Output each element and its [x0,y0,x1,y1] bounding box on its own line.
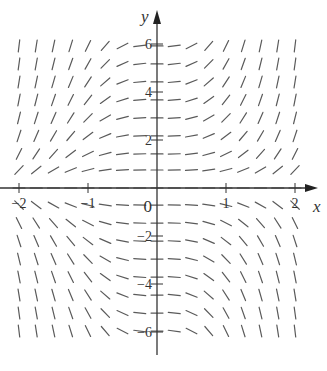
slope-segment [35,325,37,337]
slope-segment [294,76,296,88]
slope-segment [101,291,110,299]
slope-segment [69,307,73,318]
slope-segment [223,77,230,87]
slope-segment [100,239,111,244]
slope-segment [101,78,110,86]
slope-segment [18,40,19,52]
slope-segment [186,116,198,119]
slope-segment [52,271,56,282]
slope-segment [65,203,76,207]
slope-segment [239,219,248,226]
slope-segment [31,201,41,208]
slope-segment [277,325,279,337]
slope-segment [186,153,198,154]
slope-segment [292,149,297,160]
slope-segment [100,115,110,121]
slope-segment [52,76,55,88]
slope-segment [241,76,246,87]
slope-segment [257,131,263,141]
slope-segment [35,40,37,52]
slope-segment [168,294,180,295]
slope-segment [257,219,265,228]
slope-segment [186,135,198,137]
slope-segment [259,325,262,337]
slope-segment [277,58,279,70]
slope-segment [294,58,296,70]
slope-segment [50,131,56,141]
slope-segment [293,130,297,141]
slope-segment [221,237,231,244]
slope-segment [168,330,180,332]
slope-segment [203,134,214,139]
slope-segment [117,258,129,261]
slope-segment [258,112,263,123]
slope-segment [255,167,265,173]
slope-segment [240,254,246,264]
slope-segment [222,255,230,264]
slope-segment [100,134,111,139]
slope-segment [117,61,128,66]
slope-segment [101,41,109,50]
slope-segment [18,271,20,283]
slope-segment [294,289,296,301]
y-tick-label: −6 [137,325,152,340]
slope-segment [186,43,197,48]
slope-segment [48,167,58,173]
slope-segment [99,221,111,224]
slope-segment [49,149,57,158]
slope-segment [35,76,37,88]
slope-segment [66,219,75,226]
slope-segment [205,60,213,69]
slope-segment [257,236,263,246]
slope-segment [168,45,180,47]
slope-segment [291,166,299,175]
slope-segment [51,254,56,265]
slope-segment [134,294,146,295]
slope-segment [117,170,129,171]
slope-segment [33,218,39,228]
slope-field-chart: x y 0 −2−112−6−4−2246 [0,0,327,371]
origin-label: 0 [144,197,153,216]
slope-segment [223,59,229,69]
slope-segment [68,272,73,283]
slope-segment [168,136,180,137]
slope-segment [239,131,247,140]
slope-segment [241,95,246,106]
slope-segment [168,99,180,100]
slope-segment [276,271,279,283]
slope-segment [205,326,213,335]
slope-segment [69,58,73,69]
y-axis-arrow-icon [153,10,161,24]
slope-segment [35,94,38,106]
slope-segment [186,275,197,279]
slope-segment [274,149,281,159]
slope-segment [50,236,56,246]
slope-segment [35,307,37,319]
slope-segment [277,289,279,301]
slope-segment [204,274,214,281]
slope-segment [117,116,129,119]
slope-segment [117,153,129,154]
slope-segment [68,76,73,87]
slope-segment [186,170,198,171]
slope-segment [186,328,197,334]
slope-segment [117,98,128,102]
slope-segment [84,272,91,281]
slope-segment [66,150,75,157]
slope-segment [240,113,246,123]
slope-segment [117,80,128,84]
slope-segment [255,202,265,208]
slope-segment [259,94,263,105]
slope-segment [68,113,74,123]
slope-segment [259,289,262,301]
slope-segment [32,166,41,173]
slope-segment [276,94,279,106]
slope-segment [186,311,197,316]
slope-segment [241,307,245,318]
slope-segment [85,308,91,319]
slope-segment [241,40,245,51]
slope-segment [117,222,129,224]
slope-segment [17,235,21,246]
slope-segment [52,40,55,52]
slope-segment [221,220,232,225]
